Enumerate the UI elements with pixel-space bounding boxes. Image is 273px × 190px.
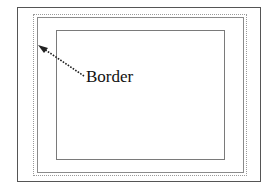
content-box <box>56 30 225 160</box>
border-label: Border <box>86 67 133 86</box>
